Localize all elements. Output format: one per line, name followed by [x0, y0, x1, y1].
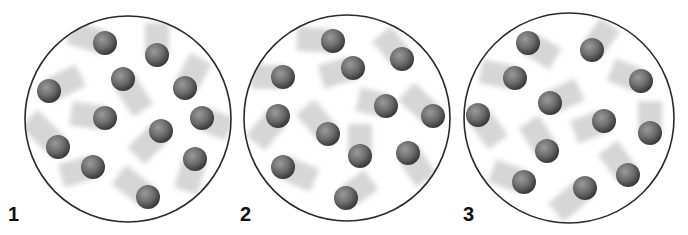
gas-particle [37, 79, 61, 103]
gas-particle [321, 29, 345, 53]
gas-particle [535, 139, 559, 163]
gas-particle [183, 147, 207, 171]
gas-particle [573, 176, 597, 200]
gas-particle [266, 104, 290, 128]
gas-particle [421, 104, 445, 128]
gas-particle [374, 94, 398, 118]
gas-particle [93, 106, 117, 130]
gas-particle [629, 69, 653, 93]
gas-particle [190, 106, 214, 130]
gas-particle [390, 47, 414, 71]
gas-particle [396, 141, 420, 165]
gas-particle [580, 38, 604, 62]
container-panel-1 [21, 16, 235, 222]
gas-particle [111, 67, 135, 91]
gas-particle [316, 122, 340, 146]
gas-particle [516, 31, 540, 55]
gas-particle [341, 56, 365, 80]
gas-particle [149, 119, 173, 143]
panel-label-3: 3 [463, 204, 474, 224]
container-panel-3 [464, 13, 674, 223]
gas-particle [503, 66, 527, 90]
gas-particle [46, 135, 70, 159]
gas-particle [466, 103, 490, 127]
gas-particles-diagram [0, 0, 688, 235]
gas-particle [81, 155, 105, 179]
gas-particle [271, 155, 295, 179]
gas-particle [173, 76, 197, 100]
container-panel-2 [244, 15, 450, 221]
gas-particle [145, 43, 169, 67]
gas-particle [136, 185, 160, 209]
gas-particle [538, 91, 562, 115]
gas-particle [512, 170, 536, 194]
panel-label-2: 2 [240, 204, 251, 224]
gas-particle [271, 65, 295, 89]
panel-label-1: 1 [8, 204, 19, 224]
gas-particle [616, 163, 640, 187]
gas-particle [592, 109, 616, 133]
gas-particle [334, 186, 358, 210]
gas-particle [638, 121, 662, 145]
gas-particle [348, 144, 372, 168]
gas-particle [93, 31, 117, 55]
